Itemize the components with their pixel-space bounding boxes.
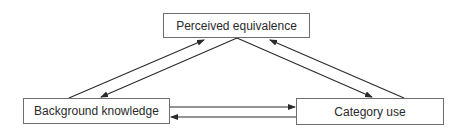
arrow-background-to-perceived bbox=[69, 40, 204, 98]
node-background-knowledge: Background knowledge bbox=[23, 98, 170, 124]
arrow-category-to-perceived bbox=[270, 40, 404, 98]
node-label: Background knowledge bbox=[34, 104, 159, 118]
node-perceived-equivalence: Perceived equivalence bbox=[163, 13, 310, 38]
node-category-use: Category use bbox=[296, 98, 444, 125]
arrow-perceived-to-category bbox=[237, 38, 372, 97]
arrow-perceived-to-background bbox=[101, 38, 237, 97]
node-label: Perceived equivalence bbox=[176, 19, 297, 33]
node-label: Category use bbox=[334, 105, 405, 119]
